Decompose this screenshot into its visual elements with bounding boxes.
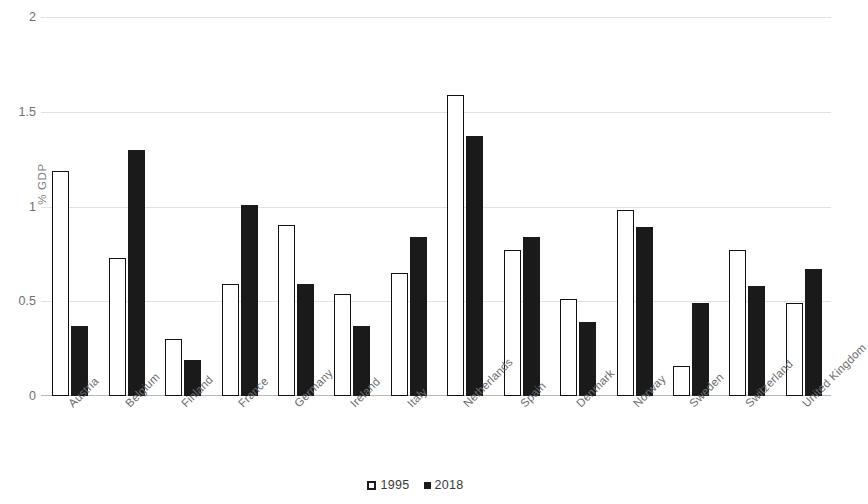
- bar-group: [617, 17, 653, 396]
- bar-united-kingdom-1995[interactable]: [786, 303, 803, 396]
- bar-group: [560, 17, 596, 396]
- bar-belgium-1995[interactable]: [109, 258, 126, 396]
- bar-germany-1995[interactable]: [278, 225, 295, 396]
- bar-france-2018[interactable]: [241, 205, 258, 396]
- bar-finland-1995[interactable]: [165, 339, 182, 396]
- bar-group: [391, 17, 427, 396]
- bar-ireland-1995[interactable]: [334, 294, 351, 396]
- bar-belgium-2018[interactable]: [128, 150, 145, 396]
- bar-group: [673, 17, 709, 396]
- bar-group: [447, 17, 483, 396]
- bar-group: [334, 17, 370, 396]
- chart-legend: 1995 2018: [0, 478, 831, 492]
- filled-square-marker-icon: [424, 482, 431, 489]
- bar-spain-2018[interactable]: [523, 237, 540, 396]
- y-axis-tick-labels: 00.511.52: [0, 17, 36, 396]
- y-tick-label: 0: [4, 389, 36, 403]
- legend-label-1995: 1995: [380, 478, 409, 492]
- bar-groups: [41, 17, 831, 396]
- open-square-marker-icon: [367, 481, 376, 490]
- legend-item-2018[interactable]: 2018: [424, 478, 464, 492]
- bar-group: [222, 17, 258, 396]
- bar-group: [278, 17, 314, 396]
- y-tick-label: 1.5: [4, 105, 36, 119]
- bar-group: [786, 17, 822, 396]
- legend-label-2018: 2018: [435, 478, 464, 492]
- legend-item-1995[interactable]: 1995: [367, 478, 409, 492]
- y-tick-label: 1: [4, 200, 36, 214]
- bar-italy-1995[interactable]: [391, 273, 408, 396]
- y-tick-label: 2: [4, 10, 36, 24]
- bar-denmark-1995[interactable]: [560, 299, 577, 396]
- bar-netherlands-1995[interactable]: [447, 95, 464, 396]
- bar-group: [52, 17, 88, 396]
- bar-austria-1995[interactable]: [52, 171, 69, 397]
- x-axis-category-labels: AustriaBelgiumFinlandFranceGermanyIrelan…: [41, 399, 831, 471]
- bar-group: [165, 17, 201, 396]
- bar-spain-1995[interactable]: [504, 250, 521, 396]
- bar-france-1995[interactable]: [222, 284, 239, 396]
- bar-sweden-1995[interactable]: [673, 366, 690, 396]
- y-tick-label: 0.5: [4, 294, 36, 308]
- bar-group: [109, 17, 145, 396]
- bar-group: [729, 17, 765, 396]
- bar-italy-2018[interactable]: [410, 237, 427, 396]
- bar-netherlands-2018[interactable]: [466, 136, 483, 396]
- bar-group: [504, 17, 540, 396]
- bar-norway-2018[interactable]: [636, 227, 653, 396]
- bar-germany-2018[interactable]: [297, 284, 314, 396]
- bar-switzerland-1995[interactable]: [729, 250, 746, 396]
- bar-norway-1995[interactable]: [617, 210, 634, 396]
- bar-united-kingdom-2018[interactable]: [805, 269, 822, 396]
